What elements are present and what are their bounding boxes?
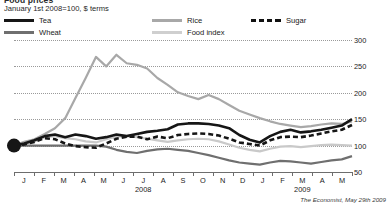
legend-label-wheat: Wheat (39, 28, 61, 37)
x-tick-10 (213, 172, 214, 176)
x-tick-3 (74, 172, 75, 176)
x-tick-label-15: A (320, 176, 325, 185)
x-tick-label-12: J (261, 176, 265, 185)
chart-figure: Food prices January 1st 2008=100, $ term… (0, 0, 392, 216)
legend-label-tea: Tea (39, 16, 51, 25)
x-tick-label-4: M (100, 176, 106, 185)
x-tick-11 (233, 172, 234, 176)
x-tick-12 (253, 172, 254, 176)
y-tick-label-150: 150 (354, 115, 380, 124)
y-tick-label-50: 50 (354, 168, 380, 177)
origin-marker-dot (7, 139, 21, 153)
x-tick-label-1: F (42, 176, 47, 185)
x-tick-label-2: M (61, 176, 67, 185)
source-note: The Economist, May 29th 2009 (300, 196, 386, 203)
x-tick-9 (193, 172, 194, 176)
x-tick-label-7: A (161, 176, 166, 185)
x-tick-0 (14, 172, 15, 176)
legend-item-rice: Rice (152, 16, 202, 25)
x-tick-label-9: O (200, 176, 206, 185)
legend-swatch-wheat (4, 31, 34, 34)
legend-item-wheat: Wheat (4, 28, 61, 37)
x-tick-label-0: J (22, 176, 26, 185)
y-tick-label-250: 250 (354, 62, 380, 71)
x-tick-15 (312, 172, 313, 176)
x-tick-8 (173, 172, 174, 176)
x-tick-label-6: J (141, 176, 145, 185)
y-axis-labels: 30025020015010050 (354, 40, 384, 180)
legend-swatch-sugar (251, 19, 281, 22)
x-tick-label-11: D (240, 176, 245, 185)
x-tick-label-3: A (81, 176, 86, 185)
series-line-tea (14, 119, 352, 145)
legend-swatch-rice (152, 19, 182, 22)
x-tick-4 (94, 172, 95, 176)
x-axis-year-2008: 2008 (135, 185, 151, 194)
legend-label-sugar: Sugar (286, 16, 306, 25)
source-publication: The Economist (300, 196, 341, 203)
legend-item-food-index: Food index (152, 28, 225, 37)
x-tick-16 (332, 172, 333, 176)
series-lines (14, 40, 352, 172)
source-date: , May 29th 2009 (342, 196, 386, 203)
x-tick-7 (153, 172, 154, 176)
legend-swatch-food-index (152, 31, 182, 34)
x-tick-14 (292, 172, 293, 176)
legend-label-food-index: Food index (187, 28, 225, 37)
series-line-wheat (14, 146, 352, 165)
x-tick-label-16: M (339, 176, 345, 185)
x-tick-17 (352, 172, 353, 176)
y-tick-label-200: 200 (354, 89, 380, 98)
x-axis-year-2009: 2009 (294, 185, 310, 194)
x-tick-label-8: S (181, 176, 186, 185)
chart-subtitle: January 1st 2008=100, $ terms (4, 4, 109, 13)
x-tick-5 (113, 172, 114, 176)
x-tick-label-13: F (280, 176, 285, 185)
y-tick-label-100: 100 (354, 142, 380, 151)
x-tick-label-5: J (121, 176, 125, 185)
chart-legend: Tea Wheat Rice Food index Sugar (4, 16, 334, 38)
x-tick-label-14: M (299, 176, 305, 185)
x-tick-label-10: N (220, 176, 225, 185)
legend-item-sugar: Sugar (251, 16, 306, 25)
x-tick-1 (34, 172, 35, 176)
legend-swatch-tea (4, 19, 34, 23)
plot-area (14, 40, 352, 172)
x-tick-6 (133, 172, 134, 176)
legend-item-tea: Tea (4, 16, 51, 25)
x-tick-2 (54, 172, 55, 176)
legend-label-rice: Rice (187, 16, 202, 25)
y-tick-label-300: 300 (354, 36, 380, 45)
x-tick-13 (272, 172, 273, 176)
